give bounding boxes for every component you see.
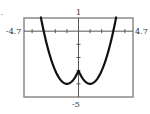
y-max-label: 1 [76,8,81,17]
x-min-label: -4.7 [6,27,21,36]
y-min-label: -5 [72,100,80,109]
function-graph: -4.7 4.7 1 -5 [0,0,150,114]
x-max-label: 4.7 [135,27,148,36]
